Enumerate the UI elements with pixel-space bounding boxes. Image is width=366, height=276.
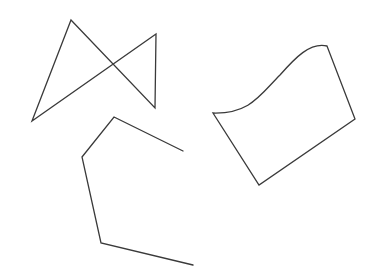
- bowtie-shape: [32, 20, 156, 121]
- drawing-canvas: [0, 0, 366, 276]
- shapes-svg: [0, 0, 366, 276]
- open-polyline-shape: [82, 117, 193, 265]
- wavy-quadrilateral-shape: [213, 45, 355, 185]
